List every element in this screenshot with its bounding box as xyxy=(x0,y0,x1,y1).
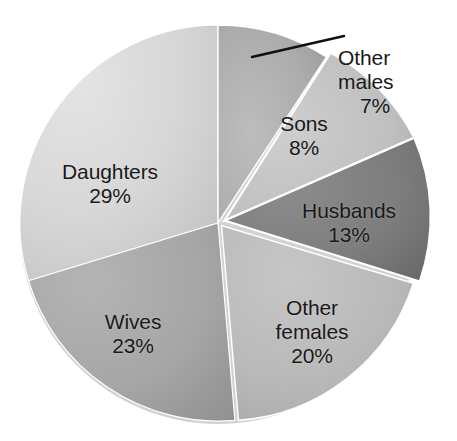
pie-chart: Daughters 29% Wives 23% Other females 20… xyxy=(0,0,457,441)
pie-chart-graphic xyxy=(0,0,457,441)
